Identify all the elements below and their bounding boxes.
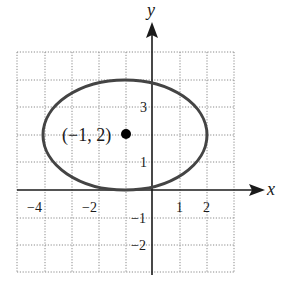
- ellipse-graph: (−1, 2) x y −4 −2 1 2 3 1 −1 −2: [0, 0, 281, 284]
- grid: [17, 52, 234, 272]
- y-axis-label: y: [145, 0, 155, 20]
- y-tick-label: −2: [131, 238, 146, 253]
- y-axis: [146, 22, 158, 275]
- y-tick-label: −1: [131, 211, 146, 226]
- y-tick-label: 1: [140, 155, 147, 170]
- x-tick-label: 2: [203, 200, 210, 215]
- center-point: [121, 129, 131, 139]
- x-tick-label: 1: [176, 200, 183, 215]
- x-axis-label: x: [266, 179, 275, 199]
- y-tick-label: 3: [140, 100, 147, 115]
- x-tick-label: −2: [82, 200, 97, 215]
- x-tick-label: −4: [27, 200, 42, 215]
- center-point-label: (−1, 2): [62, 125, 111, 146]
